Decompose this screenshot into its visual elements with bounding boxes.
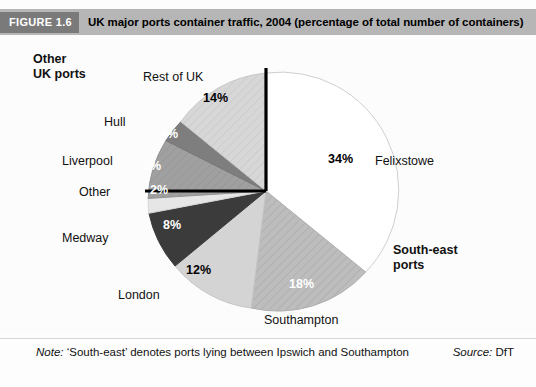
slice-label-hull: Hull <box>104 115 126 130</box>
slice-label-rest-of-uk: Rest of UK <box>143 70 203 85</box>
slice-label-medway: Medway <box>62 231 109 246</box>
footer-divider <box>0 338 536 339</box>
group-label-south-east-ports: South-east ports <box>393 243 458 273</box>
slice-value-southampton: 18% <box>289 278 314 291</box>
figure-source-prefix: Source: <box>453 346 493 358</box>
group-label-other-uk-ports-line2: UK ports <box>33 67 86 81</box>
figure-title: UK major ports container traffic, 2004 (… <box>88 16 524 28</box>
slice-value-medway: 8% <box>163 219 181 232</box>
slice-value-other: 2% <box>150 184 168 197</box>
group-label-south-east-ports-line2: ports <box>393 258 424 272</box>
figure-note-prefix: Note: <box>36 346 64 358</box>
slice-value-hull: 4% <box>160 128 178 141</box>
group-label-other-uk-ports: Other UK ports <box>33 52 86 82</box>
group-label-south-east-ports-line1: South-east <box>393 243 458 257</box>
slice-label-felixstowe: Felixstowe <box>375 154 434 169</box>
slice-value-liverpool: 8% <box>143 160 161 173</box>
chart-area: Other UK ports South-east ports Rest of … <box>0 35 536 332</box>
figure-source-body: DfT <box>495 346 514 358</box>
slice-value-london: 12% <box>186 264 211 277</box>
figure-note-body: ‘South-east’ denotes ports lying between… <box>67 346 409 358</box>
figure-note: Note: ‘South-east’ denotes ports lying b… <box>36 346 409 358</box>
figure-container: FIGURE 1.6 UK major ports container traf… <box>0 0 536 387</box>
slice-label-london: London <box>118 288 160 303</box>
slice-label-liverpool: Liverpool <box>62 154 113 169</box>
slice-value-felixstowe: 34% <box>328 153 353 166</box>
figure-title-bar: FIGURE 1.6 UK major ports container traf… <box>0 9 536 35</box>
slice-label-southampton: Southampton <box>264 313 338 328</box>
figure-source: Source: DfT <box>453 346 514 358</box>
figure-footer: Note: ‘South-east’ denotes ports lying b… <box>0 346 536 376</box>
figure-number-badge: FIGURE 1.6 <box>0 12 79 33</box>
group-label-other-uk-ports-line1: Other <box>33 52 66 66</box>
slice-label-other: Other <box>79 185 110 200</box>
slice-value-rest-of-uk: 14% <box>203 92 228 105</box>
